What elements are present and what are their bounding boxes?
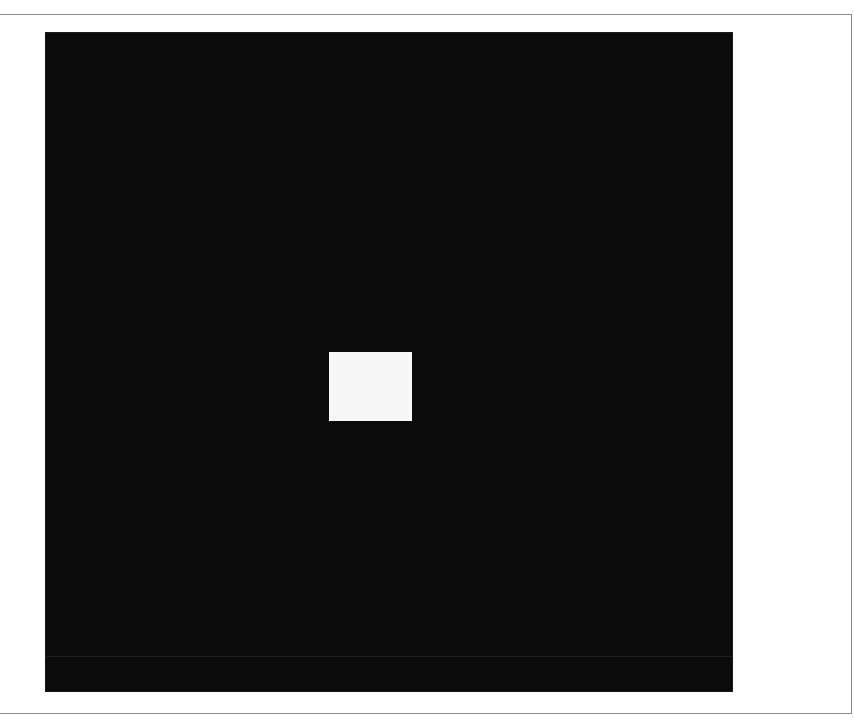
canvas-divider bbox=[46, 656, 732, 657]
display-canvas[interactable] bbox=[46, 33, 732, 691]
white-square[interactable] bbox=[329, 352, 412, 421]
